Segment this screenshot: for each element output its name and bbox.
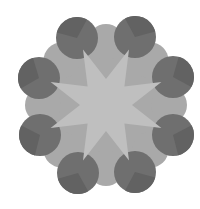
rosette-figure [0, 0, 200, 209]
